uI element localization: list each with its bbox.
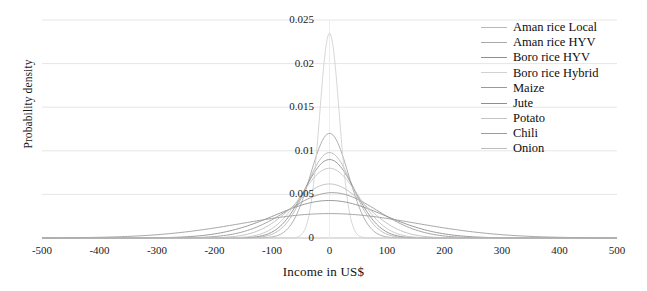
legend-item-label: Boro rice HYV xyxy=(513,51,590,64)
legend-swatch-icon xyxy=(481,42,507,43)
legend-swatch-icon xyxy=(481,57,507,58)
chart-legend: Aman rice LocalAman rice HYVBoro rice HY… xyxy=(481,20,647,156)
x-tick-label: -100 xyxy=(242,244,302,256)
legend-item[interactable]: Boro rice Hybrid xyxy=(481,65,647,80)
x-tick-label: -500 xyxy=(12,244,72,256)
y-tick-label: 0.01 xyxy=(258,145,314,156)
y-tick-label: 0.025 xyxy=(258,14,314,25)
x-tick-label: 200 xyxy=(415,244,475,256)
legend-item-label: Onion xyxy=(513,142,544,155)
y-tick-label: 0.005 xyxy=(258,188,314,199)
chart-container: Probability density 00.0050.010.0150.020… xyxy=(0,0,647,291)
legend-item-label: Aman rice HYV xyxy=(513,36,596,49)
x-tick-label: 400 xyxy=(530,244,590,256)
x-tick-label: -200 xyxy=(185,244,245,256)
legend-item-label: Jute xyxy=(513,97,533,110)
legend-item[interactable]: Aman rice HYV xyxy=(481,35,647,50)
legend-swatch-icon xyxy=(481,27,507,28)
legend-item-label: Maize xyxy=(513,82,544,95)
legend-item[interactable]: Aman rice Local xyxy=(481,20,647,35)
legend-item-label: Chili xyxy=(513,127,538,140)
legend-item[interactable]: Chili xyxy=(481,126,647,141)
legend-item-label: Boro rice Hybrid xyxy=(513,67,598,80)
legend-item[interactable]: Onion xyxy=(481,141,647,156)
legend-swatch-icon xyxy=(481,118,507,119)
legend-item-label: Aman rice Local xyxy=(513,21,597,34)
x-tick-label: -300 xyxy=(127,244,187,256)
legend-item[interactable]: Jute xyxy=(481,95,647,110)
y-tick-label: 0.02 xyxy=(258,58,314,69)
y-tick-label: 0 xyxy=(258,232,314,243)
legend-swatch-icon xyxy=(481,72,507,73)
legend-swatch-icon xyxy=(481,87,507,88)
x-tick-label: 300 xyxy=(472,244,532,256)
x-axis-title: Income in US$ xyxy=(0,264,647,280)
legend-item-label: Potato xyxy=(513,112,545,125)
legend-swatch-icon xyxy=(481,148,507,149)
x-tick-label: 0 xyxy=(300,244,360,256)
legend-swatch-icon xyxy=(481,103,507,104)
x-tick-label: -400 xyxy=(70,244,130,256)
legend-swatch-icon xyxy=(481,133,507,134)
x-tick-label: 500 xyxy=(587,244,647,256)
x-tick-label: 100 xyxy=(357,244,417,256)
legend-item[interactable]: Potato xyxy=(481,111,647,126)
y-tick-label: 0.015 xyxy=(258,101,314,112)
legend-item[interactable]: Boro rice HYV xyxy=(481,50,647,65)
legend-item[interactable]: Maize xyxy=(481,80,647,95)
y-axis-title: Probability density xyxy=(22,29,34,179)
